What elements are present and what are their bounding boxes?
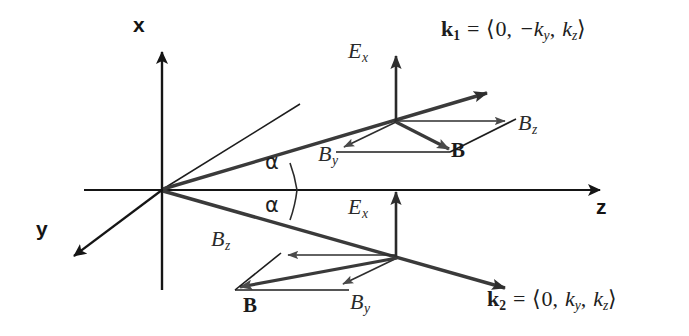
- k2-component-1: k: [565, 286, 575, 311]
- By-upper-symbol: B: [318, 141, 331, 166]
- field-label-B-upper: B: [451, 140, 465, 161]
- k2-component-2: k: [593, 286, 603, 311]
- Ex-lower-symbol: E: [348, 194, 361, 219]
- Ex-upper-subscript: x: [362, 50, 368, 65]
- field-label-Ex-upper: Ex: [348, 40, 368, 64]
- k2-close-bracket: ⟩: [608, 286, 617, 311]
- y-axis: [74, 190, 162, 256]
- alpha-arc-lower: [290, 190, 297, 220]
- Bz-upper-symbol: B: [518, 110, 531, 135]
- k1-equation: k1=⟨0,−ky,kz⟩: [441, 18, 586, 42]
- Bz-lower-symbol: B: [211, 226, 224, 251]
- axis-label-x: x: [133, 14, 145, 35]
- field-label-Bz-lower: Bz: [211, 228, 230, 252]
- Bz-upper-subscript: z: [532, 122, 537, 137]
- alpha-arc-upper: [290, 163, 297, 190]
- k2-equation: k2=⟨0,ky,kz⟩: [487, 288, 617, 312]
- k2-equals: =: [513, 286, 525, 311]
- field-label-Bz-upper: Bz: [518, 112, 537, 136]
- By-upper-subscript: y: [332, 153, 338, 168]
- field-label-Ex-lower: Ex: [348, 196, 368, 220]
- k2-subscript: 2: [499, 298, 506, 313]
- By-lower-symbol: B: [350, 289, 363, 314]
- angle-label-alpha-upper: α: [265, 152, 279, 173]
- B-arrow-upper: [396, 122, 449, 149]
- k1-subscript: 1: [453, 28, 460, 43]
- k1-component-1-sub: y: [544, 28, 550, 43]
- Bz-lower-subscript: z: [225, 238, 230, 253]
- k1-component-2: k: [562, 16, 572, 41]
- field-label-By-lower: By: [350, 291, 370, 315]
- k2-component-1-sub: y: [575, 298, 581, 313]
- B-arrow-lower: [240, 258, 397, 287]
- k2-component-0: 0: [541, 286, 552, 311]
- k1-symbol: k: [441, 16, 453, 41]
- wave-vector-diagram: x y z α α k1=⟨0,−ky,kz⟩ k2=⟨0,ky,kz⟩ Ex …: [0, 0, 689, 336]
- Ex-upper-symbol: E: [348, 38, 361, 63]
- axis-label-z: z: [596, 196, 607, 217]
- field-label-By-upper: By: [318, 143, 338, 167]
- k1-close-bracket: ⟩: [577, 16, 586, 41]
- k2-symbol: k: [487, 286, 499, 311]
- k1-equals: =: [467, 16, 479, 41]
- k1-component-0: 0: [495, 16, 506, 41]
- Ex-lower-subscript: x: [362, 206, 368, 221]
- k1-component-1: −k: [519, 16, 544, 41]
- angle-label-alpha-lower: α: [265, 195, 279, 216]
- k1-construction-ray: [163, 104, 300, 189]
- field-label-B-lower: B: [243, 295, 257, 316]
- By-lower-subscript: y: [364, 301, 370, 316]
- axis-label-y: y: [36, 218, 48, 239]
